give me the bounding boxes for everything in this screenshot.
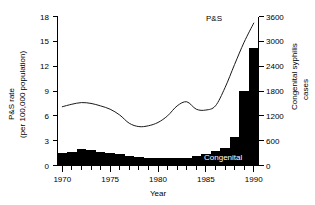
- right-axis-title-line1: Congenital syphilis: [290, 43, 299, 110]
- x-tick-label-1970: 1970: [53, 175, 71, 184]
- left-axis: 0369121518 P&S rate (per 100,000 populat…: [7, 13, 58, 171]
- x-axis: 19701975198019851990 Year: [53, 166, 263, 199]
- right-tick-label-3000: 3000: [266, 37, 284, 46]
- bar-1975: [105, 153, 115, 165]
- right-tick-label-1200: 1200: [266, 112, 284, 121]
- bar-1971: [67, 152, 77, 166]
- bar-1978: [134, 157, 144, 165]
- bar-1990: [249, 48, 259, 166]
- right-tick-label-3600: 3600: [266, 13, 284, 22]
- right-tick-label-2400: 2400: [266, 62, 284, 71]
- x-axis-title: Year: [150, 189, 167, 198]
- left-tick-label-3: 3: [45, 137, 50, 146]
- bar-1973: [86, 150, 96, 165]
- right-axis: 060012001800240030003600 Congenital syph…: [259, 13, 311, 171]
- chart-canvas: 0369121518 P&S rate (per 100,000 populat…: [0, 0, 315, 205]
- left-axis-title-line1: P&S rate: [7, 87, 16, 120]
- x-tick-label-1980: 1980: [149, 175, 167, 184]
- left-tick-label-12: 12: [40, 62, 49, 71]
- right-tick-label-0: 0: [266, 162, 271, 171]
- x-axis-ticks: 19701975198019851990: [53, 166, 263, 185]
- series-annotation-congenital: Congenital: [204, 153, 242, 162]
- right-axis-ticks: 060012001800240030003600: [259, 13, 285, 171]
- bar-1983: [182, 158, 192, 166]
- bar-1972: [77, 149, 87, 166]
- bar-1979: [144, 158, 154, 166]
- right-tick-label-1800: 1800: [266, 87, 284, 96]
- x-tick-label-1990: 1990: [245, 175, 263, 184]
- bar-1984: [192, 156, 202, 165]
- bar-series-congenital: [58, 48, 259, 166]
- bar-1977: [125, 156, 135, 166]
- left-tick-label-0: 0: [45, 162, 50, 171]
- series-annotation-ps: P&S: [206, 14, 222, 23]
- bar-1982: [172, 158, 182, 165]
- right-axis-title-line2: cases: [301, 79, 310, 100]
- left-tick-label-9: 9: [45, 87, 50, 96]
- bar-1974: [96, 152, 106, 166]
- x-tick-label-1985: 1985: [197, 175, 215, 184]
- left-axis-title-line2: (per 100,000 population): [18, 50, 27, 138]
- chart-figure: 0369121518 P&S rate (per 100,000 populat…: [0, 0, 315, 205]
- left-axis-ticks: 0369121518: [40, 13, 57, 171]
- bar-1981: [163, 158, 173, 165]
- right-tick-label-600: 600: [266, 137, 280, 146]
- bar-1976: [115, 154, 125, 166]
- left-tick-label-6: 6: [45, 112, 50, 121]
- x-tick-label-1975: 1975: [101, 175, 119, 184]
- bar-1970: [58, 153, 68, 165]
- left-tick-label-18: 18: [40, 13, 49, 22]
- line-series-ps: [62, 23, 253, 127]
- left-tick-label-15: 15: [40, 37, 49, 46]
- bar-1980: [153, 158, 163, 165]
